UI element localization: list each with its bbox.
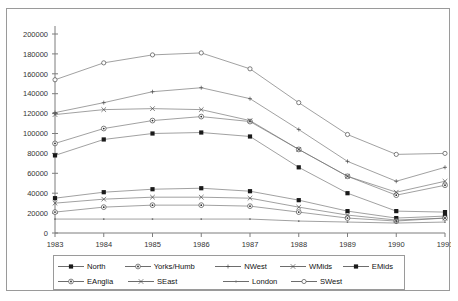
- y-axis-tick-label: 40000: [27, 189, 48, 198]
- x-axis-tick-label: 1984: [95, 240, 112, 249]
- legend-marker-filled-square-icon: [343, 261, 369, 272]
- legend-row: NorthYorks/HumbNWestWMidsEMids: [58, 259, 400, 274]
- chart-frame: 0200004000060000800001000001200001400001…: [6, 8, 450, 291]
- legend-label: SEast: [157, 276, 177, 287]
- y-axis-tick-label: 20000: [27, 209, 48, 218]
- cut-off-text: [0, 0, 458, 2]
- legend-marker-circle-dot-icon: [58, 276, 84, 287]
- series-emids: [53, 186, 447, 220]
- legend-marker-open-circle-icon: [291, 276, 317, 287]
- legend-item-seast[interactable]: SEast: [128, 274, 223, 289]
- series-yorks-humb: [53, 114, 448, 197]
- legend-label: SWest: [320, 276, 342, 287]
- legend-marker-tiny-dot-icon: [223, 276, 249, 287]
- legend-item-wmids[interactable]: WMids: [280, 259, 343, 274]
- legend-item-london[interactable]: London: [223, 274, 291, 289]
- legend-marker-cross-icon: [128, 276, 154, 287]
- chart-screenshot: 0200004000060000800001000001200001400001…: [0, 0, 458, 301]
- legend-label: London: [252, 276, 277, 287]
- x-axis-tick-label: 1990: [388, 240, 405, 249]
- x-axis-tick-label: 1983: [47, 240, 64, 249]
- legend-label: WMids: [309, 261, 332, 272]
- y-axis-tick-label: 120000: [23, 109, 48, 118]
- y-axis-tick-label: 100000: [23, 129, 48, 138]
- y-axis-tick-label: 180000: [23, 50, 48, 59]
- x-axis-tick-label: 1988: [290, 240, 307, 249]
- legend-label: EMids: [372, 261, 393, 272]
- series-north: [53, 130, 447, 214]
- legend-item-emids[interactable]: EMids: [343, 259, 400, 274]
- plot-area: 0200004000060000800001000001200001400001…: [7, 9, 451, 250]
- legend-marker-circle-dot-icon: [125, 261, 151, 272]
- legend-item-swest[interactable]: SWest: [291, 274, 357, 289]
- legend-item-north[interactable]: North: [58, 259, 125, 274]
- chart-legend: NorthYorks/HumbNWestWMidsEMidsEAngliaSEa…: [53, 255, 405, 290]
- y-axis-tick-label: 0: [44, 229, 48, 238]
- legend-row: EAngliaSEastLondonSWest: [58, 274, 400, 289]
- legend-label: EAnglia: [87, 276, 113, 287]
- y-axis-tick-label: 200000: [23, 30, 48, 39]
- y-axis-tick-label: 80000: [27, 149, 48, 158]
- x-axis-tick-label: 1986: [193, 240, 210, 249]
- series-eanglia: [53, 203, 448, 224]
- legend-marker-small-plus-icon: [215, 261, 241, 272]
- legend-marker-cross-icon: [280, 261, 306, 272]
- cut-off-text-strip: [0, 0, 458, 7]
- legend-item-nwest[interactable]: NWest: [215, 259, 280, 274]
- y-axis-tick-label: 140000: [23, 89, 48, 98]
- x-axis-tick-label: 1989: [339, 240, 356, 249]
- legend-label: NWest: [244, 261, 267, 272]
- legend-item-yorks-humb[interactable]: Yorks/Humb: [125, 259, 216, 274]
- legend-label: North: [87, 261, 106, 272]
- x-axis-tick-label: 1985: [144, 240, 161, 249]
- y-axis-tick-label: 60000: [27, 169, 48, 178]
- y-axis-tick-label: 160000: [23, 70, 48, 79]
- series-swest: [53, 51, 447, 157]
- legend-label: Yorks/Humb: [154, 261, 195, 272]
- legend-item-eanglia[interactable]: EAnglia: [58, 274, 128, 289]
- line-chart: 0200004000060000800001000001200001400001…: [7, 9, 451, 250]
- x-axis-tick-label: 1987: [242, 240, 259, 249]
- legend-marker-filled-square-icon: [58, 261, 84, 272]
- x-axis-tick-label: 1991: [437, 240, 451, 249]
